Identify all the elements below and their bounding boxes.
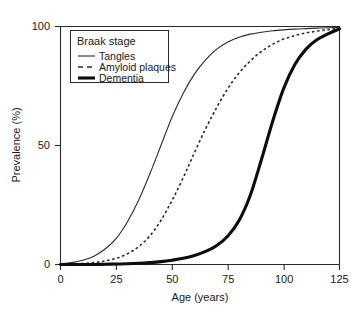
x-tick-label-75: 75 (222, 273, 234, 285)
y-tick-labels: 0 50 100 (32, 20, 50, 270)
legend-title: Braak stage (77, 35, 136, 47)
chart-figure: 0 50 100 0 25 50 75 100 125 Age (years) … (0, 0, 360, 318)
x-tick-label-100: 100 (275, 273, 293, 285)
legend: Braak stage Tangles Amyloid plaques Deme… (71, 31, 177, 84)
x-axis-title: Age (years) (172, 291, 229, 303)
prevalence-vs-age-line-chart: 0 50 100 0 25 50 75 100 125 Age (years) … (0, 0, 360, 318)
y-tick-label-100: 100 (32, 20, 50, 32)
x-tick-label-0: 0 (57, 273, 63, 285)
x-tick-label-125: 125 (330, 273, 348, 285)
legend-label-dementia: Dementia (99, 72, 144, 84)
x-tick-labels: 0 25 50 75 100 125 (57, 273, 348, 285)
x-tick-label-25: 25 (110, 273, 122, 285)
y-axis-title: Prevalence (%) (10, 107, 22, 182)
y-tick-label-50: 50 (38, 139, 50, 151)
y-tick-label-0: 0 (44, 258, 50, 270)
y-tick-marks (55, 27, 61, 265)
x-tick-label-50: 50 (166, 273, 178, 285)
